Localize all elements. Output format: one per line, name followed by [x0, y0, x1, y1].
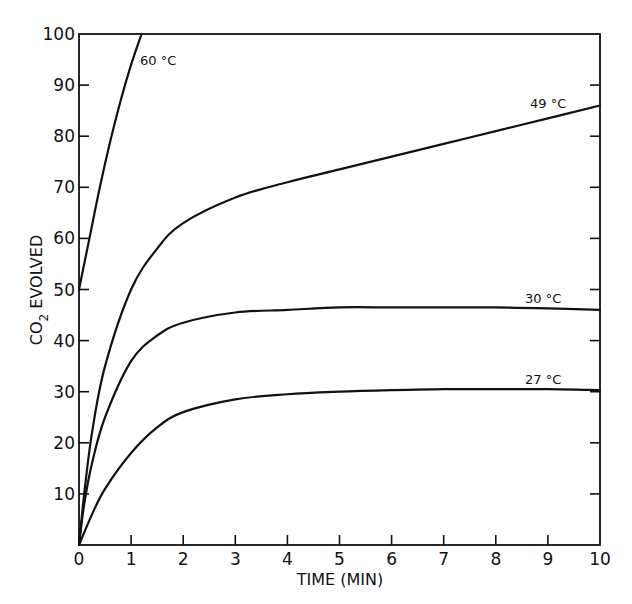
y-tick-label: 20 — [53, 433, 75, 453]
series-label-30c: 30 °C — [525, 291, 561, 306]
x-tick-label: 8 — [490, 549, 501, 569]
data-curves — [79, 34, 600, 545]
y-tick-label: 10 — [53, 484, 75, 504]
x-tick-label: 6 — [386, 549, 397, 569]
x-tick-label: 5 — [334, 549, 345, 569]
x-tick-label: 2 — [178, 549, 189, 569]
x-tick-label: 1 — [126, 549, 137, 569]
y-tick-label: 90 — [53, 75, 75, 95]
x-tick-label: 9 — [542, 549, 553, 569]
y-axis-ticks: 102030405060708090100 — [43, 24, 600, 504]
x-tick-label: 10 — [589, 549, 611, 569]
x-tick-label: 7 — [438, 549, 449, 569]
curve-60c — [79, 34, 142, 290]
x-tick-label: 3 — [230, 549, 241, 569]
x-tick-label: 0 — [74, 549, 85, 569]
y-tick-label: 100 — [43, 24, 75, 44]
co2-evolution-chart: 012345678910 102030405060708090100 TIME … — [0, 0, 632, 604]
y-tick-label: 30 — [53, 382, 75, 402]
x-axis-title: TIME (MIN) — [296, 570, 383, 589]
series-label-49c: 49 °C — [530, 96, 566, 111]
x-axis-ticks: 012345678910 — [74, 535, 611, 569]
series-label-60c: 60 °C — [140, 53, 176, 68]
curve-49c — [79, 106, 600, 545]
x-tick-label: 4 — [282, 549, 293, 569]
y-tick-label: 50 — [53, 280, 75, 300]
y-tick-label: 60 — [53, 228, 75, 248]
plot-frame — [79, 34, 600, 545]
y-tick-label: 80 — [53, 126, 75, 146]
y-axis-title: CO2 EVOLVED — [27, 235, 51, 345]
curve-27c — [79, 389, 600, 545]
y-tick-label: 40 — [53, 331, 75, 351]
y-tick-label: 70 — [53, 177, 75, 197]
series-label-27c: 27 °C — [525, 372, 561, 387]
